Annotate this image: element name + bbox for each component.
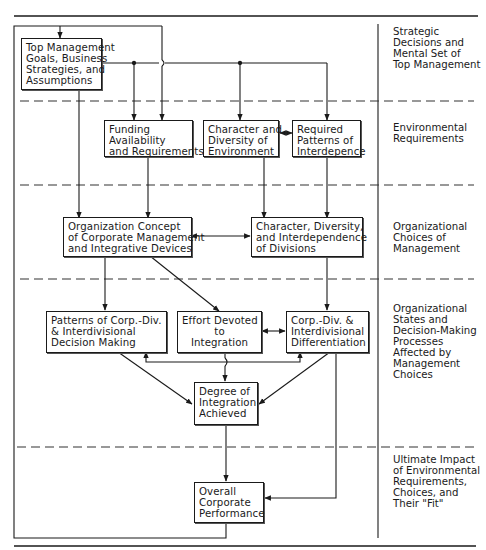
box-text: to bbox=[182, 326, 257, 337]
label-text: Decisions and bbox=[393, 37, 481, 48]
box-text: Required bbox=[297, 124, 356, 135]
box-funding: Funding Availability and Requirements bbox=[104, 120, 193, 157]
box-text: Patterns of Corp.-Div. bbox=[51, 315, 162, 326]
box-text: and Interdependence bbox=[256, 232, 358, 243]
box-effort-integration: Effort Devoted to Integration bbox=[177, 311, 262, 353]
level-label-strategic: Strategic Decisions and Mental Set of To… bbox=[393, 26, 481, 70]
label-text: Choices, and bbox=[393, 487, 480, 498]
box-text: Integration bbox=[182, 337, 257, 348]
box-text: Integration bbox=[199, 397, 253, 408]
box-text: Differentiation bbox=[291, 337, 364, 348]
box-text: Patterns of bbox=[297, 135, 356, 146]
box-text: Performance bbox=[199, 508, 259, 519]
label-text: Ultimate Impact bbox=[393, 454, 480, 465]
box-text: Assumptions bbox=[26, 75, 97, 86]
box-text: Achieved bbox=[199, 408, 253, 419]
box-text: Character and bbox=[208, 124, 274, 135]
label-text: Choices bbox=[393, 369, 477, 380]
label-text: Strategic bbox=[393, 26, 481, 37]
label-text: States and bbox=[393, 314, 477, 325]
box-text: Goals, Business bbox=[26, 53, 97, 64]
box-text: of Divisions bbox=[256, 243, 358, 254]
label-text: Decision-Making bbox=[393, 325, 477, 336]
box-differentiation: Corp.-Div. & Interdivisional Differentia… bbox=[286, 311, 369, 353]
box-text: of Corporate Management bbox=[68, 232, 187, 243]
box-text: Strategies, and bbox=[26, 64, 97, 75]
box-text: Funding bbox=[109, 124, 188, 135]
box-text: and Requirements bbox=[109, 146, 188, 157]
label-text: Their "Fit" bbox=[393, 498, 480, 509]
box-character-environment: Character and Diversity of Environment bbox=[203, 120, 279, 157]
label-text: Organizational bbox=[393, 303, 477, 314]
level-label-organizational-choices: Organizational Choices of Management bbox=[393, 221, 467, 254]
box-text: Environment bbox=[208, 146, 274, 157]
box-text: Corporate bbox=[199, 497, 259, 508]
label-text: of Environmental bbox=[393, 465, 480, 476]
label-text: Processes bbox=[393, 336, 477, 347]
box-text: Decision Making bbox=[51, 337, 162, 348]
box-required-patterns: Required Patterns of Interdepence bbox=[292, 120, 361, 157]
label-text: Mental Set of bbox=[393, 48, 481, 59]
box-text: Top Management bbox=[26, 42, 97, 53]
box-text: and Integrative Devices bbox=[68, 243, 187, 254]
label-text: Top Management bbox=[393, 59, 481, 70]
box-text: Interdivisional bbox=[291, 326, 364, 337]
box-text: Availability bbox=[109, 135, 188, 146]
box-text: Character, Diversity, bbox=[256, 221, 358, 232]
box-text: Degree of bbox=[199, 386, 253, 397]
label-text: Environmental bbox=[393, 122, 467, 133]
label-text: Choices of bbox=[393, 232, 467, 243]
level-label-environmental: Environmental Requirements bbox=[393, 122, 467, 144]
label-text: Management bbox=[393, 243, 467, 254]
box-top-management: Top Management Goals, Business Strategie… bbox=[21, 38, 102, 90]
box-text: Interdepence bbox=[297, 146, 356, 157]
level-label-organizational-states: Organizational States and Decision-Makin… bbox=[393, 303, 477, 380]
label-text: Affected by bbox=[393, 347, 477, 358]
box-text: Organization Concept bbox=[68, 221, 187, 232]
box-text: Diversity of bbox=[208, 135, 274, 146]
box-character-divisions: Character, Diversity, and Interdependenc… bbox=[251, 217, 363, 257]
box-text: Overall bbox=[199, 486, 259, 497]
box-text: Corp.-Div. & bbox=[291, 315, 364, 326]
label-text: Organizational bbox=[393, 221, 467, 232]
box-text: Effort Devoted bbox=[182, 315, 257, 326]
label-text: Requirements bbox=[393, 133, 467, 144]
label-text: Management bbox=[393, 358, 477, 369]
box-patterns-decision-making: Patterns of Corp.-Div. & Interdivisional… bbox=[46, 311, 167, 353]
label-text: Requirements, bbox=[393, 476, 480, 487]
box-degree-integration: Degree of Integration Achieved bbox=[194, 382, 258, 425]
box-organization-concept: Organization Concept of Corporate Manage… bbox=[63, 217, 192, 257]
box-overall-performance: Overall Corporate Performance bbox=[194, 482, 264, 523]
level-label-ultimate-impact: Ultimate Impact of Environmental Require… bbox=[393, 454, 480, 509]
box-text: & Interdivisional bbox=[51, 326, 162, 337]
